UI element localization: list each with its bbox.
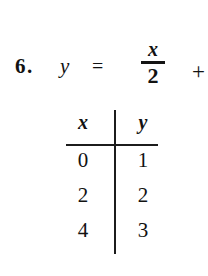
table-cell-y-2: 3 xyxy=(126,220,160,241)
table-column-divider xyxy=(114,110,116,254)
table-cell-y-0: 1 xyxy=(126,150,160,171)
table-cell-x-2: 4 xyxy=(66,220,100,241)
value-table: x y 0 1 2 2 4 3 xyxy=(0,100,208,250)
worksheet-problem: 6. y = x 2 + x y 0 1 2 2 4 3 xyxy=(0,0,208,276)
table-header-x: x xyxy=(66,112,100,132)
equation-line: 6. y = x 2 + xyxy=(0,38,208,96)
fraction-numerator: x xyxy=(138,38,168,60)
table-cell-x-0: 0 xyxy=(66,150,100,171)
fraction-x-over-2: x 2 xyxy=(138,38,168,88)
problem-number: 6. xyxy=(15,56,34,77)
plus-operator: + xyxy=(192,60,205,83)
equation-left-variable: y xyxy=(60,56,69,77)
table-cell-x-1: 2 xyxy=(66,185,100,206)
equals-sign: = xyxy=(92,56,103,76)
table-header-rule xyxy=(66,144,158,146)
table-cell-y-1: 2 xyxy=(126,185,160,206)
table-header-y: y xyxy=(126,112,160,132)
fraction-denominator: 2 xyxy=(138,64,168,88)
